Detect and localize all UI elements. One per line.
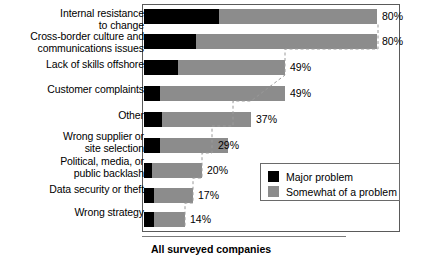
category-label-internal-resistance: Internal resistance to change (60, 8, 144, 31)
bar-segment-somewhat (152, 163, 202, 178)
bar-segment-somewhat (162, 112, 251, 127)
bar-segment-major (144, 212, 154, 227)
bar-segment-somewhat (178, 60, 285, 75)
category-label-wrong-strategy: Wrong strategy (74, 207, 144, 219)
legend-item-major-problem: Major problem (268, 170, 353, 183)
legend-swatch-major-icon (268, 171, 279, 182)
legend-swatch-somewhat-icon (268, 186, 279, 197)
legend-item-somewhat-problem: Somewhat of a problem (268, 185, 397, 198)
bar-segment-somewhat (160, 86, 285, 101)
bar-segment-major (144, 60, 178, 75)
bar-segment-major (144, 112, 162, 127)
category-label-data-security: Data security or theft (49, 184, 144, 196)
legend-label: Major problem (286, 171, 353, 183)
category-label-customer-complaints: Customer complaints (47, 84, 144, 96)
bar-segment-somewhat (154, 212, 185, 227)
bar-segment-major (144, 138, 160, 153)
value-label: 49% (290, 86, 311, 101)
value-label: 14% (190, 212, 211, 227)
category-label-other: Other (118, 110, 144, 122)
bar-segment-major (144, 9, 219, 24)
footer-divider (142, 236, 346, 237)
value-label: 80% (382, 9, 403, 24)
category-label-political-media: Political, media, or public backlash (60, 156, 144, 179)
bar-segment-somewhat (219, 9, 377, 24)
value-label: 20% (207, 163, 228, 178)
stacked-bar-chart: Internal resistance to change Cross-bord… (0, 0, 422, 262)
bar-segment-major (144, 188, 154, 203)
x-axis-caption: All surveyed companies (0, 243, 422, 255)
value-label: 37% (256, 112, 277, 127)
value-label: 49% (290, 60, 311, 75)
category-label-wrong-supplier: Wrong supplier or site selection (63, 131, 144, 154)
bar-segment-major (144, 34, 196, 49)
legend-label: Somewhat of a problem (286, 186, 397, 198)
value-label: 17% (198, 188, 219, 203)
value-label: 80% (382, 34, 403, 49)
bar-segment-major (144, 86, 160, 101)
value-label: 29% (218, 138, 239, 153)
category-label-cross-border-culture: Cross-border culture and communications … (30, 31, 144, 54)
bar-segment-somewhat (196, 34, 377, 49)
bar-segment-major (144, 163, 152, 178)
category-label-lack-of-skills: Lack of skills offshore (46, 59, 144, 71)
bar-segment-somewhat (154, 188, 193, 203)
chart-legend: Major problem Somewhat of a problem (260, 163, 400, 201)
